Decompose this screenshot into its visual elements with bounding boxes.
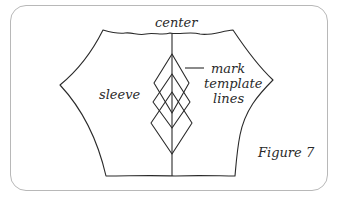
mark-label-line2: template xyxy=(204,77,262,90)
sleeve-pattern-drawing xyxy=(0,0,350,207)
sleeve-label: sleeve xyxy=(99,88,140,101)
mark-label-line1: mark xyxy=(211,62,245,75)
mark-label-line3: lines xyxy=(213,92,244,105)
center-label: center xyxy=(155,16,197,29)
figure-caption: Figure 7 xyxy=(258,146,314,159)
